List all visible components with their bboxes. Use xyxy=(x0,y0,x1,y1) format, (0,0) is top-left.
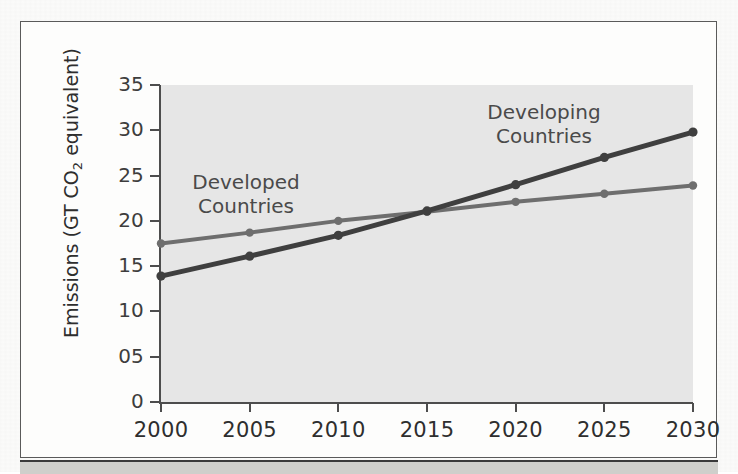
data-point xyxy=(600,153,609,162)
data-point xyxy=(334,231,343,240)
figure-frame: Emissions (GT CO2 equivalent) 0051015202… xyxy=(20,21,717,458)
data-point xyxy=(600,189,608,197)
data-point xyxy=(245,228,253,236)
series-label-developing: Developing Countries xyxy=(459,100,629,149)
data-point xyxy=(334,217,342,225)
series-label-developed: Developed Countries xyxy=(171,170,321,219)
data-point xyxy=(689,181,697,189)
data-point xyxy=(422,206,431,215)
data-point xyxy=(245,252,254,261)
chart-series-layer xyxy=(21,22,718,459)
data-point xyxy=(511,180,520,189)
data-point xyxy=(157,239,165,247)
data-point xyxy=(688,128,697,137)
bottom-band xyxy=(20,460,718,474)
data-point xyxy=(156,272,165,281)
data-point xyxy=(511,198,519,206)
